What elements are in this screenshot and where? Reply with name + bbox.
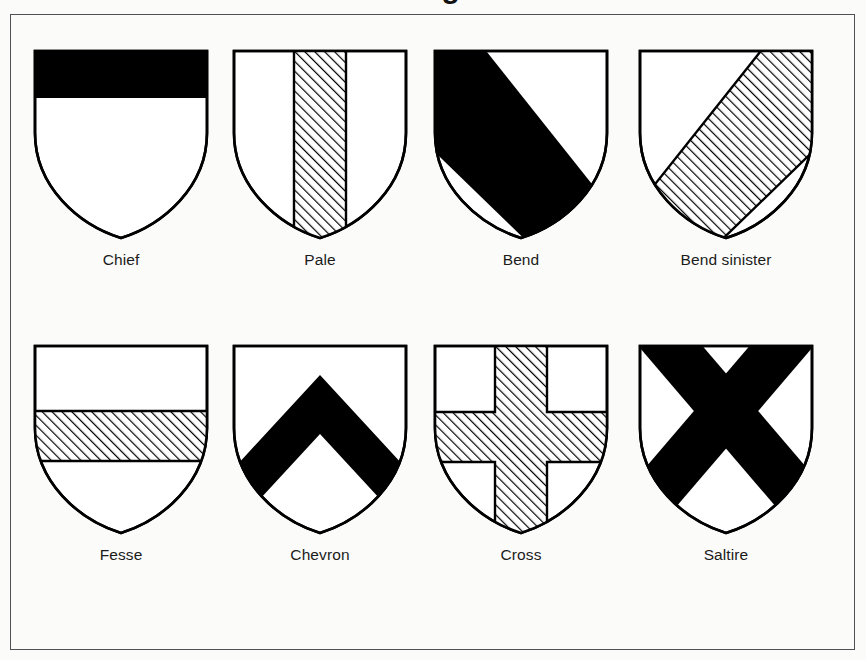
shield-label-fesse: Fesse <box>21 546 221 564</box>
ordinary-fesse-band <box>31 411 211 461</box>
shield-cell-saltire[interactable]: Saltire <box>626 342 826 564</box>
shield-figure-chevron <box>230 342 410 537</box>
shield-figure-pale <box>230 47 410 242</box>
shield-figure-chief <box>31 47 211 242</box>
shield-body <box>234 346 406 533</box>
shield-label-chevron: Chevron <box>220 546 420 564</box>
shield-figure-bend <box>431 47 611 242</box>
shield-cell-chevron[interactable]: Chevron <box>220 342 420 564</box>
page-title-text: Charges <box>0 0 866 10</box>
shield-cell-pale[interactable]: Pale <box>220 47 420 269</box>
shield-label-cross: Cross <box>421 546 621 564</box>
shield-cell-fesse[interactable]: Fesse <box>21 342 221 564</box>
shield-figure-fesse <box>31 342 211 537</box>
shield-grid: Chief <box>11 15 854 649</box>
ordinary-pale-band <box>294 47 346 242</box>
shield-label-pale: Pale <box>220 251 420 269</box>
page-title-clipped: Charges <box>0 0 866 10</box>
shield-cell-bend[interactable]: Bend <box>421 47 621 269</box>
page-canvas: Charges <box>0 0 866 660</box>
shield-cell-cross[interactable]: Cross <box>421 342 621 564</box>
shield-label-saltire: Saltire <box>626 546 826 564</box>
shield-label-chief: Chief <box>21 251 221 269</box>
shield-cell-bend-sinister[interactable]: Bend sinister <box>626 47 826 269</box>
figure-frame: Chief <box>10 14 855 650</box>
shield-figure-bend-sinister <box>636 47 816 242</box>
shield-label-bend: Bend <box>421 251 621 269</box>
shield-figure-cross <box>431 342 611 537</box>
shield-cell-chief[interactable]: Chief <box>21 47 221 269</box>
ordinary-chief-band <box>31 50 211 98</box>
shield-label-bend-sinister: Bend sinister <box>626 251 826 269</box>
shield-figure-saltire <box>636 342 816 537</box>
